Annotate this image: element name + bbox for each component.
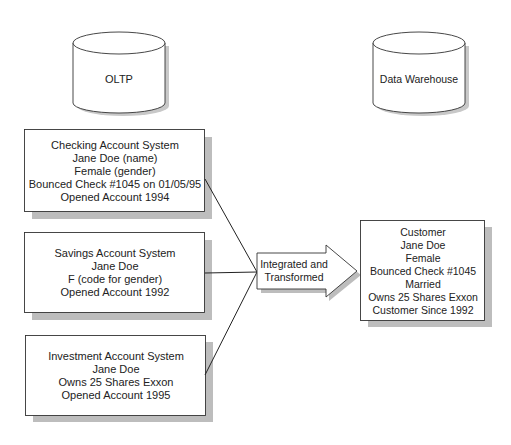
oltp-label: OLTP bbox=[73, 73, 165, 86]
customer-line: Jane Doe bbox=[401, 239, 446, 252]
checking-system-line: Bounced Check #1045 on 01/05/95 bbox=[29, 178, 201, 191]
checking-system-line: Opened Account 1994 bbox=[61, 191, 170, 204]
customer-line: Owns 25 Shares Exxon bbox=[368, 291, 478, 304]
investment-system-text: Investment Account System Jane Doe Owns … bbox=[26, 336, 206, 416]
customer-record-text: Customer Jane Doe Female Bounced Check #… bbox=[361, 221, 485, 321]
investment-system-title: Investment Account System bbox=[48, 350, 184, 363]
data-warehouse-label: Data Warehouse bbox=[373, 73, 465, 86]
savings-system-title: Savings Account System bbox=[54, 247, 175, 260]
checking-system-title: Checking Account System bbox=[51, 139, 179, 152]
arrow-line: Integrated and bbox=[260, 258, 328, 271]
integration-arrow-text: Integrated and Transformed bbox=[256, 253, 332, 289]
savings-system-line: Opened Account 1992 bbox=[61, 286, 170, 299]
customer-line: Bounced Check #1045 bbox=[370, 265, 476, 278]
customer-line: Married bbox=[405, 278, 441, 291]
checking-system-line: Jane Doe (name) bbox=[73, 152, 158, 165]
arrow-line: Transformed bbox=[264, 271, 323, 284]
investment-system-line: Jane Doe bbox=[92, 363, 139, 376]
checking-system-line: Female (gender) bbox=[74, 165, 155, 178]
investment-system-line: Owns 25 Shares Exxon bbox=[59, 376, 174, 389]
customer-line: Customer Since 1992 bbox=[373, 304, 474, 317]
checking-system-text: Checking Account System Jane Doe (name) … bbox=[25, 130, 205, 212]
savings-system-text: Savings Account System Jane Doe F (code … bbox=[25, 233, 205, 313]
savings-system-line: Jane Doe bbox=[91, 260, 138, 273]
customer-title: Customer bbox=[400, 226, 446, 239]
customer-line: Female bbox=[405, 252, 440, 265]
savings-system-line: F (code for gender) bbox=[68, 273, 162, 286]
investment-system-line: Opened Account 1995 bbox=[62, 389, 171, 402]
